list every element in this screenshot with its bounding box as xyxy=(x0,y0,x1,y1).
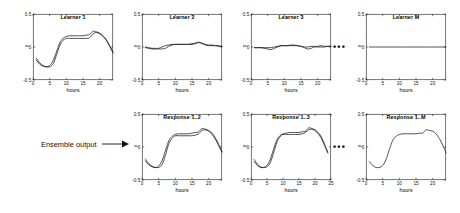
panel-title: Response 1..M xyxy=(366,114,446,120)
y-axis-label: y xyxy=(132,136,138,156)
svg-text:20: 20 xyxy=(97,81,103,86)
svg-text:10: 10 xyxy=(397,181,403,186)
svg-text:-0.5: -0.5 xyxy=(23,78,31,83)
x-axis-label: hours xyxy=(142,187,222,193)
ensemble-output-arrow xyxy=(101,138,131,150)
panel-response-1-3: Response 1..3 0510152025-0.500.5 y hours xyxy=(251,114,331,180)
svg-text:20: 20 xyxy=(430,181,436,186)
svg-text:15: 15 xyxy=(189,81,195,86)
svg-text:-0.5: -0.5 xyxy=(356,178,364,183)
svg-text:5: 5 xyxy=(266,81,269,86)
svg-text:0: 0 xyxy=(250,81,253,86)
plot-area-learner-3: 05101520-0.500.5 xyxy=(251,14,331,80)
plot-area-learner-1: 05101520-0.500.5 xyxy=(33,14,113,80)
row-ellipsis-bottom: ••• xyxy=(333,143,346,152)
plot-area-learner-m: 05101520-0.500.5 xyxy=(366,14,446,80)
panel-title: Response 1..3 xyxy=(251,114,331,120)
panel-title: Learner 3 xyxy=(251,14,331,20)
svg-text:-0.5: -0.5 xyxy=(241,78,249,83)
panel-response-1-2: Response 1..2 05101520-0.500.5 y hours xyxy=(142,114,222,180)
svg-text:20: 20 xyxy=(430,81,436,86)
ensemble-output-label: Ensemble output xyxy=(41,140,96,149)
panel-learner-2: Learner 2 05101520-0.500.5 y hours xyxy=(142,14,222,80)
svg-text:0: 0 xyxy=(141,81,144,86)
svg-text:20: 20 xyxy=(312,181,318,186)
svg-text:5: 5 xyxy=(157,81,160,86)
svg-text:0.5: 0.5 xyxy=(134,12,141,17)
plot-area-response-1-2: 05101520-0.500.5 xyxy=(142,114,222,180)
y-axis-label: y xyxy=(356,136,362,156)
svg-text:0: 0 xyxy=(365,81,368,86)
svg-text:10: 10 xyxy=(282,81,288,86)
x-axis-label: hours xyxy=(251,87,331,93)
svg-text:0: 0 xyxy=(141,181,144,186)
svg-text:0: 0 xyxy=(32,81,35,86)
plot-area-learner-2: 05101520-0.500.5 xyxy=(142,14,222,80)
svg-text:15: 15 xyxy=(413,181,419,186)
y-axis-label: y xyxy=(356,36,362,56)
y-axis-label: y xyxy=(241,136,247,156)
svg-text:-0.5: -0.5 xyxy=(132,78,140,83)
panel-learner-3: Learner 3 05101520-0.500.5 y hours xyxy=(251,14,331,80)
svg-text:-0.5: -0.5 xyxy=(132,178,140,183)
svg-text:0.5: 0.5 xyxy=(25,12,32,17)
svg-text:0: 0 xyxy=(138,45,141,50)
panel-title: Learner M xyxy=(366,14,446,20)
svg-text:10: 10 xyxy=(397,81,403,86)
svg-text:0.5: 0.5 xyxy=(358,12,365,17)
panel-title: Learner 1 xyxy=(33,14,113,20)
plot-area-response-1-m: 05101520-0.500.5 xyxy=(366,114,446,180)
x-axis-label: hours xyxy=(366,187,446,193)
svg-text:10: 10 xyxy=(173,181,179,186)
svg-text:5: 5 xyxy=(266,181,269,186)
svg-text:5: 5 xyxy=(157,181,160,186)
svg-text:5: 5 xyxy=(381,181,384,186)
svg-text:5: 5 xyxy=(381,81,384,86)
svg-text:10: 10 xyxy=(64,81,70,86)
svg-text:20: 20 xyxy=(206,81,212,86)
svg-text:0.5: 0.5 xyxy=(243,112,250,117)
svg-text:0.5: 0.5 xyxy=(134,112,141,117)
panel-title: Response 1..2 xyxy=(142,114,222,120)
x-axis-label: hours xyxy=(33,87,113,93)
svg-text:10: 10 xyxy=(173,81,179,86)
svg-text:0: 0 xyxy=(250,181,253,186)
ensemble-learning-figure: Learner 1 05101520-0.500.5 y hours Learn… xyxy=(0,0,460,213)
plot-area-response-1-3: 0510152025-0.500.5 xyxy=(251,114,331,180)
svg-text:5: 5 xyxy=(48,81,51,86)
x-axis-label: hours xyxy=(251,187,331,193)
x-axis-label: hours xyxy=(142,87,222,93)
svg-text:-0.5: -0.5 xyxy=(356,78,364,83)
svg-text:15: 15 xyxy=(298,81,304,86)
svg-text:0: 0 xyxy=(29,45,32,50)
panel-learner-m: Learner M 05101520-0.500.5 y hours xyxy=(366,14,446,80)
svg-text:-0.5: -0.5 xyxy=(241,178,249,183)
svg-text:15: 15 xyxy=(80,81,86,86)
y-axis-label: y xyxy=(23,36,29,56)
panel-title: Learner 2 xyxy=(142,14,222,20)
svg-text:10: 10 xyxy=(280,181,286,186)
svg-text:0: 0 xyxy=(138,145,141,150)
svg-text:15: 15 xyxy=(413,81,419,86)
svg-text:0.5: 0.5 xyxy=(243,12,250,17)
y-axis-label: y xyxy=(241,36,247,56)
svg-text:0: 0 xyxy=(362,145,365,150)
svg-text:0: 0 xyxy=(362,45,365,50)
row-ellipsis-top: ••• xyxy=(333,43,346,52)
svg-text:15: 15 xyxy=(189,181,195,186)
svg-text:0: 0 xyxy=(365,181,368,186)
x-axis-label: hours xyxy=(366,87,446,93)
y-axis-label: y xyxy=(132,36,138,56)
svg-text:20: 20 xyxy=(206,181,212,186)
panel-response-1-m: Response 1..M 05101520-0.500.5 y hours xyxy=(366,114,446,180)
svg-text:0: 0 xyxy=(247,45,250,50)
svg-text:25: 25 xyxy=(328,181,334,186)
svg-text:15: 15 xyxy=(296,181,302,186)
svg-text:0: 0 xyxy=(247,145,250,150)
svg-text:20: 20 xyxy=(315,81,321,86)
svg-text:0.5: 0.5 xyxy=(358,112,365,117)
panel-learner-1: Learner 1 05101520-0.500.5 y hours xyxy=(33,14,113,80)
